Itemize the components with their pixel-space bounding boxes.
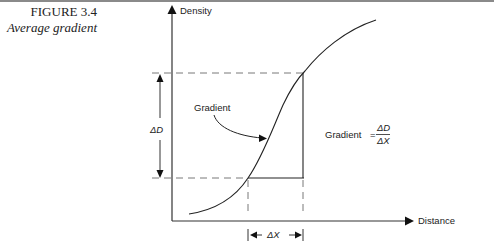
delta-d-arrow-down-icon: [157, 170, 164, 178]
gradient-label: Gradient: [194, 102, 231, 113]
x-axis-label: Distance: [418, 215, 455, 226]
formula-lhs: Gradient: [325, 129, 362, 140]
x-axis-arrow-icon: [405, 217, 414, 226]
density-curve: [189, 20, 376, 214]
delta-x-arrow-right-icon: [295, 232, 302, 239]
formula-denominator: ΔX: [376, 135, 390, 146]
y-axis-arrow-icon: [168, 5, 177, 14]
delta-d-label: ΔD: [149, 124, 163, 135]
formula-numerator: ΔD: [376, 122, 390, 133]
gradient-pointer: [214, 115, 262, 138]
formula-equals: =: [370, 129, 376, 140]
y-axis-label: Density: [180, 5, 212, 16]
delta-x-label: ΔX: [266, 229, 280, 240]
delta-d-arrow-up-icon: [157, 74, 164, 82]
delta-x-arrow-left-icon: [250, 232, 257, 239]
gradient-diagram: Density Distance Gradient ΔD ΔX Gradient…: [0, 0, 494, 251]
gradient-pointer-arrow-icon: [259, 135, 267, 143]
